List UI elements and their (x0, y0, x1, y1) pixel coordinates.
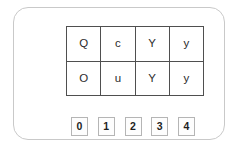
grid-cell-r1c1[interactable]: u (101, 61, 135, 96)
index-button-row: 0 1 2 3 4 (71, 116, 195, 136)
index-button-0[interactable]: 0 (71, 117, 88, 136)
rounded-panel: Q c Y y O u Y y 0 1 2 3 4 (13, 7, 225, 140)
index-button-1[interactable]: 1 (98, 117, 115, 136)
grid-cell-r1c0[interactable]: O (67, 61, 101, 96)
grid-cell-r0c2[interactable]: Y (135, 27, 169, 62)
grid-cell-r1c2[interactable]: Y (135, 61, 169, 96)
letter-grid: Q c Y y O u Y y (66, 26, 204, 96)
table-row: Q c Y y (67, 27, 204, 62)
grid-cell-r1c3[interactable]: y (169, 61, 203, 96)
index-button-2[interactable]: 2 (125, 117, 142, 136)
grid-cell-r0c1[interactable]: c (101, 27, 135, 62)
index-button-4[interactable]: 4 (178, 117, 195, 136)
grid-cell-r0c3[interactable]: y (169, 27, 203, 62)
grid-cell-r0c0[interactable]: Q (67, 27, 101, 62)
index-button-3[interactable]: 3 (151, 117, 168, 136)
table-row: O u Y y (67, 61, 204, 96)
screen: Q c Y y O u Y y 0 1 2 3 4 (0, 0, 239, 150)
letter-grid-container: Q c Y y O u Y y (66, 26, 199, 93)
